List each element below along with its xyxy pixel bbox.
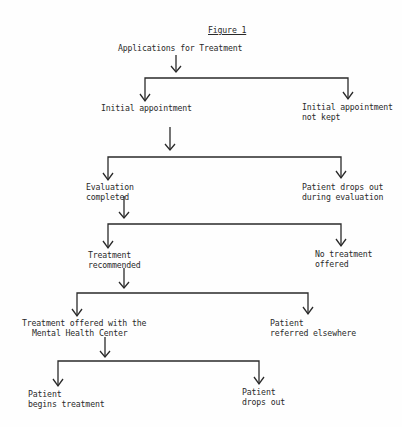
node-treatment-offered-mhc: Treatment offered with the Mental Health… [22,318,146,338]
arrow-down-icon [171,55,181,72]
arrow-down-icon [165,127,175,150]
node-evaluation-completed: Evaluation completed [86,182,134,202]
node-initial-appointment: Initial appointment [101,103,192,113]
arrow-down-icon [100,337,110,357]
node-drops-out: Patient drops out [242,387,285,407]
node-referred-elsewhere: Patient referred elsewhere [270,318,356,338]
node-drops-out-evaluation: Patient drops out during evaluation [302,182,383,202]
node-treatment-recommended: Treatment recommended [88,250,141,270]
node-applications: Applications for Treatment [118,43,242,53]
branch-connector-4 [72,293,313,316]
branch-connector-1 [140,78,353,101]
arrow-down-icon [119,268,129,288]
node-no-treatment-offered: No treatment offered [315,249,372,269]
branch-connector-5 [53,361,264,386]
branch-connector-2 [103,157,346,180]
node-begins-treatment: Patient begins treatment [28,389,104,409]
flowchart-connectors [0,0,402,427]
node-appointment-not-kept: Initial appointment not kept [302,102,393,122]
figure-title: Figure 1 [208,25,246,35]
branch-connector-3 [103,224,346,248]
